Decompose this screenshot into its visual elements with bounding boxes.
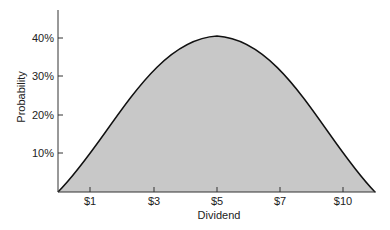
- probability-area: [58, 36, 375, 192]
- y-tick-label: 20%: [32, 109, 54, 121]
- y-ticks: [58, 38, 63, 153]
- y-axis-title: Probability: [15, 71, 27, 123]
- y-tick-label: 40%: [32, 32, 54, 44]
- y-tick-label: 10%: [32, 147, 54, 159]
- y-tick-label: 30%: [32, 70, 54, 82]
- x-tick-label: $7: [274, 195, 286, 207]
- x-axis-title: Dividend: [198, 209, 241, 221]
- x-tick-label: $10: [334, 195, 352, 207]
- x-tick-label: $1: [84, 195, 96, 207]
- dividend-probability-chart: 10% 20% 30% 40% $1 $3 $5 $7 $10 Dividend…: [0, 0, 390, 230]
- x-tick-label: $5: [211, 195, 223, 207]
- x-tick-label: $3: [148, 195, 160, 207]
